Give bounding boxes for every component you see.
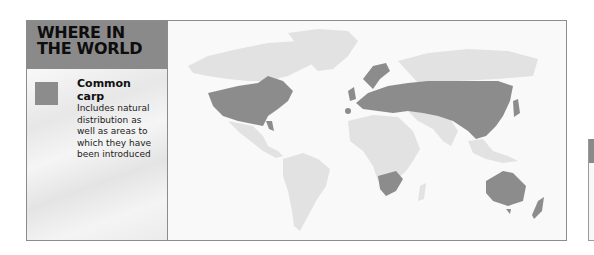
legend-swatch [35, 82, 58, 105]
legend-sidebar: WHERE IN THE WORLD Common carp Includes … [27, 21, 168, 240]
panel-header: WHERE IN THE WORLD [27, 21, 167, 69]
legend-title: Common carp [77, 77, 161, 103]
world-map [168, 21, 566, 240]
adjacent-panel-edge [588, 139, 594, 241]
legend-description: Includes natural distribution as well as… [77, 103, 161, 161]
adjacent-panel-header [589, 139, 594, 163]
where-in-the-world-panel: WHERE IN THE WORLD Common carp Includes … [26, 20, 567, 241]
panel-title: WHERE IN THE WORLD [37, 25, 167, 57]
world-map-graphic [168, 21, 566, 240]
legend: Common carp Includes natural distributio… [27, 69, 167, 161]
